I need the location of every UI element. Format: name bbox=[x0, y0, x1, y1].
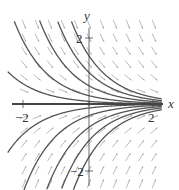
x-tick-label-neg2: −2 bbox=[15, 110, 29, 125]
y-axis-label: y bbox=[82, 8, 90, 23]
solution-curve bbox=[8, 72, 162, 104]
direction-field-plot: x y −2 2 2 −2 bbox=[0, 0, 179, 190]
solution-curve bbox=[47, 106, 162, 189]
solution-curve bbox=[24, 105, 162, 190]
origin-dot bbox=[87, 102, 91, 106]
solution-curve bbox=[71, 21, 161, 98]
x-tick-label-2: 2 bbox=[148, 110, 155, 125]
x-axis-label: x bbox=[167, 96, 174, 111]
y-tick-label-neg2: −2 bbox=[70, 164, 84, 179]
y-tick-label-2: 2 bbox=[76, 31, 83, 46]
solution-curves bbox=[8, 21, 162, 190]
